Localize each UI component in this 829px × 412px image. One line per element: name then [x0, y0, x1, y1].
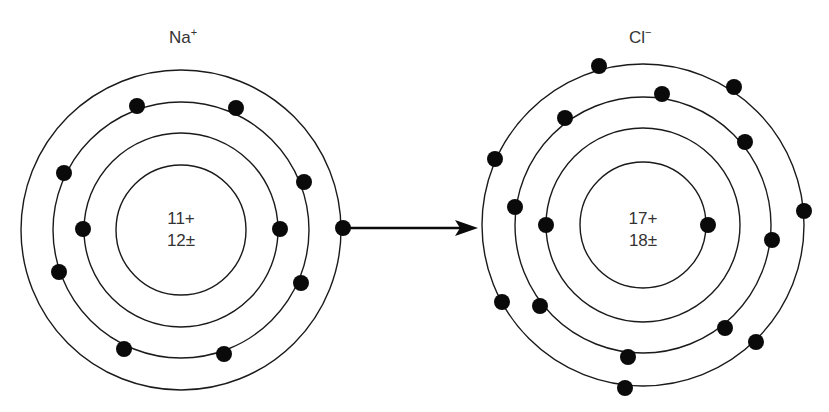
ionic-bond-diagram: Na+ 11+ 12± Cl− 17+ 18±: [0, 0, 829, 412]
electron: [717, 320, 733, 336]
electron: [487, 151, 503, 167]
electron: [796, 203, 812, 219]
electron: [507, 199, 523, 215]
electron: [532, 298, 548, 314]
na-ion-label: Na+: [169, 26, 197, 47]
sodium-ion: Na+ 11+ 12±: [21, 26, 351, 390]
chloride-ion: Cl− 17+ 18±: [482, 26, 812, 396]
electron: [737, 134, 753, 150]
electron: [620, 349, 636, 365]
electron: [228, 100, 244, 116]
na-proton-count: 11+: [167, 209, 195, 228]
electron: [296, 174, 312, 190]
electron: [538, 217, 554, 233]
electron: [56, 165, 72, 181]
electron: [216, 346, 232, 362]
na-electrons: [51, 98, 351, 362]
electron: [293, 275, 309, 291]
electron-transfer-arrow: [343, 220, 478, 236]
electron: [591, 58, 607, 74]
na-nucleus-boundary: [116, 165, 246, 295]
electron: [75, 221, 91, 237]
electron: [700, 217, 716, 233]
electron: [272, 221, 288, 237]
electron: [654, 86, 670, 102]
electron: [748, 334, 764, 350]
cl-neutron-count: 18±: [629, 231, 657, 250]
cl-ion-label: Cl−: [629, 26, 652, 47]
electron: [116, 341, 132, 357]
electron: [617, 380, 633, 396]
na-neutron-count: 12±: [167, 231, 195, 250]
electron: [129, 98, 145, 114]
electron: [726, 79, 742, 95]
cl-proton-count: 17+: [629, 209, 658, 228]
electron: [494, 294, 510, 310]
na-shell-1: [84, 133, 278, 327]
electron: [764, 232, 780, 248]
electron: [557, 110, 573, 126]
electron: [51, 264, 67, 280]
na-shell-2: [53, 102, 309, 358]
na-shell-3: [21, 70, 341, 390]
